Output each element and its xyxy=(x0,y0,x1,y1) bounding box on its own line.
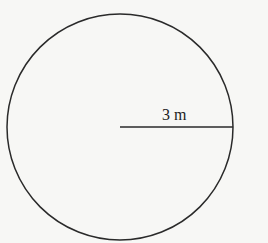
circle-diagram: 3 m xyxy=(0,0,268,243)
radius-label: 3 m xyxy=(162,106,187,123)
